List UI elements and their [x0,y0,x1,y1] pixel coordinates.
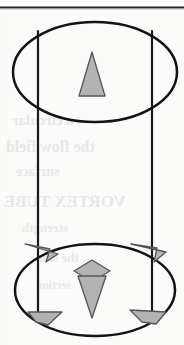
bottom-center-down-arrow [78,276,106,318]
figure-canvas: a circular the flow field surface VORTEX… [0,0,184,345]
top-center-up-triangle [79,52,105,96]
upper-left-arrowhead [25,244,58,262]
lower-left-arrowhead [28,312,62,325]
lower-right-arrowhead [130,310,166,324]
cylinder-diagram-svg [0,0,184,345]
upper-right-arrowhead [131,244,166,262]
